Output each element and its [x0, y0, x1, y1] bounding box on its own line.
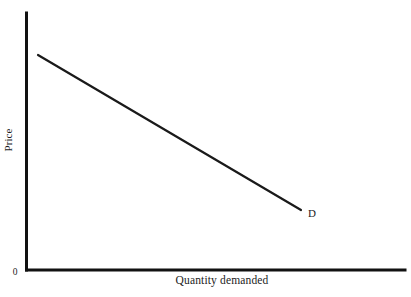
x-axis-label: Quantity demanded: [176, 275, 269, 287]
origin-label: 0: [13, 268, 18, 278]
demand-curve-figure: Price Quantity demanded 0 D: [0, 0, 411, 297]
figure-background: [0, 0, 411, 297]
demand-curve-label: D: [308, 208, 316, 219]
plot-canvas: [0, 0, 411, 297]
y-axis-label: Price: [3, 128, 14, 151]
